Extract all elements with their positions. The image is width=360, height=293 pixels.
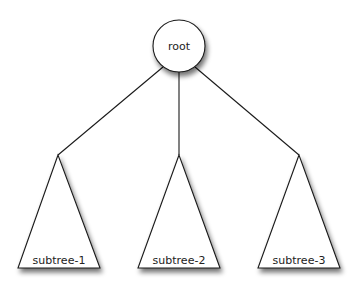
- edge-root-subtree-1: [58, 67, 163, 155]
- edges: [58, 67, 299, 155]
- subtree-1-triangle: [18, 155, 100, 268]
- subtree-2-label: subtree-2: [153, 254, 206, 267]
- root-label: root: [168, 40, 191, 53]
- subtree-1-label: subtree-1: [33, 254, 86, 267]
- subtree-2-node: subtree-2: [138, 155, 220, 268]
- subtree-1-node: subtree-1: [18, 155, 100, 268]
- subtree-2-triangle: [138, 155, 220, 268]
- subtree-3-label: subtree-3: [273, 254, 326, 267]
- tree-diagram: subtree-1 subtree-2 subtree-3 root: [0, 0, 360, 293]
- diagram-svg: subtree-1 subtree-2 subtree-3 root: [0, 0, 360, 293]
- subtree-3-node: subtree-3: [258, 155, 340, 268]
- subtree-3-triangle: [258, 155, 340, 268]
- edge-root-subtree-3: [195, 67, 299, 155]
- root-node: root: [153, 20, 205, 72]
